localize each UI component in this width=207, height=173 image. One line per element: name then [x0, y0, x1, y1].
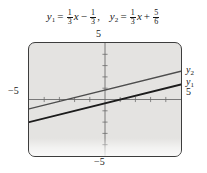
curve-label-y1-subscript: 1: [190, 81, 194, 89]
equation-y2-constant-numerator: 5: [153, 9, 159, 17]
equation-separator-comma: ,: [97, 10, 100, 22]
equation-y1-operator: −: [81, 10, 87, 22]
equation-y2-coefficient-denominator: 3: [130, 17, 136, 26]
equation-y2: y2=13x+56: [110, 9, 160, 26]
screen-bezel: [28, 42, 182, 157]
equation-y1-coefficient-denominator: 3: [67, 17, 73, 26]
equation-y1-constant-numerator: 1: [90, 9, 96, 17]
equation-y1-variable: x: [74, 10, 79, 22]
equation-y2-coefficient-fraction: 13: [130, 9, 136, 26]
graphing-calculator-figure: y1=13x−13, y2=13x+56 5 −5 −5 5 y2 y1: [0, 0, 207, 173]
equation-y1-equals: =: [57, 10, 63, 22]
coordinate-plane: [29, 43, 181, 156]
y-axis-min-label: −5: [94, 156, 105, 167]
equation-y1: y1=13x−13,: [47, 9, 100, 26]
y-axis-max-label: 5: [96, 28, 101, 39]
x-axis-min-label: −5: [8, 85, 19, 96]
equation-y2-variable: x: [137, 10, 142, 22]
equation-y2-equals: =: [120, 10, 126, 22]
equation-y1-constant-denominator: 3: [90, 17, 96, 26]
equation-y2-operator: +: [144, 10, 150, 22]
equation-y1-subscript: 1: [52, 16, 56, 24]
equation-y1-coefficient-numerator: 1: [67, 9, 73, 17]
equation-caption: y1=13x−13, y2=13x+56: [0, 9, 207, 26]
equation-y2-constant-fraction: 56: [153, 9, 159, 26]
curve-label-y1: y1: [186, 76, 194, 89]
equation-y1-constant-fraction: 13: [90, 9, 96, 26]
equation-y2-subscript: 2: [115, 16, 119, 24]
equation-y1-coefficient-fraction: 13: [67, 9, 73, 26]
calculator-screen: [28, 42, 182, 157]
equation-y2-constant-denominator: 6: [153, 17, 159, 26]
equation-y2-coefficient-numerator: 1: [130, 9, 136, 17]
